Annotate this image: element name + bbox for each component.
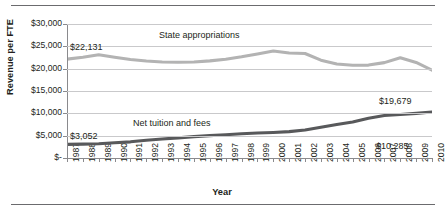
- y-tick-label: $25,000: [4, 40, 62, 50]
- x-tick-mark: [257, 158, 258, 162]
- gridline: [67, 136, 432, 137]
- x-tick-mark: [432, 158, 433, 162]
- value-label-state-start: $22,131: [70, 42, 103, 52]
- value-label-tuition-end: $10,285: [376, 141, 409, 151]
- bottom-horizontal-rule: [11, 204, 435, 205]
- y-tick-mark: [63, 113, 67, 114]
- x-tick-mark: [99, 158, 100, 162]
- x-tick-mark: [289, 158, 290, 162]
- gridline: [67, 24, 432, 25]
- x-axis-title: Year: [0, 187, 444, 197]
- series-line-net-tuition-and-fees: [67, 112, 432, 144]
- series-line-state-appropriations: [67, 51, 432, 70]
- series-label-net-tuition-and-fees: Net tuition and fees: [133, 118, 211, 128]
- x-tick-mark: [210, 158, 211, 162]
- gridline: [67, 113, 432, 114]
- x-tick-mark: [194, 158, 195, 162]
- value-label-state-end: $19,679: [379, 96, 412, 106]
- y-tick-mark: [63, 91, 67, 92]
- x-tick-mark: [305, 158, 306, 162]
- y-tick-mark: [63, 69, 67, 70]
- x-tick-mark: [369, 158, 370, 162]
- gridline: [67, 46, 432, 47]
- y-tick-label: $20,000: [4, 63, 62, 73]
- y-tick-mark: [63, 136, 67, 137]
- x-tick-mark: [226, 158, 227, 162]
- y-tick-label: $30,000: [4, 18, 62, 28]
- x-tick-label: 2010: [436, 143, 446, 162]
- y-axis-title: Revenue per FTE: [5, 19, 15, 95]
- x-tick-mark: [273, 158, 274, 162]
- gridline: [67, 91, 432, 92]
- gridline: [67, 69, 432, 70]
- plot-area: [67, 24, 432, 158]
- y-tick-label: $5,000: [4, 130, 62, 140]
- x-axis-line: [67, 158, 432, 159]
- y-tick-label: $15,000: [4, 85, 62, 95]
- value-label-tuition-start: $3,052: [70, 131, 98, 141]
- x-tick-mark: [115, 158, 116, 162]
- x-tick-mark: [83, 158, 84, 162]
- x-tick-mark: [416, 158, 417, 162]
- x-tick-mark: [384, 158, 385, 162]
- x-tick-mark: [67, 158, 68, 162]
- x-tick-mark: [242, 158, 243, 162]
- y-tick-label: $-: [4, 152, 62, 162]
- y-tick-mark: [63, 46, 67, 47]
- x-tick-mark: [178, 158, 179, 162]
- y-tick-mark: [63, 24, 67, 25]
- x-tick-mark: [400, 158, 401, 162]
- x-tick-mark: [337, 158, 338, 162]
- x-tick-mark: [162, 158, 163, 162]
- x-tick-mark: [130, 158, 131, 162]
- y-tick-label: $10,000: [4, 107, 62, 117]
- x-tick-mark: [321, 158, 322, 162]
- x-tick-mark: [146, 158, 147, 162]
- x-tick-mark: [353, 158, 354, 162]
- top-horizontal-rule: [11, 5, 435, 6]
- series-label-state-appropriations: State appropriations: [159, 30, 240, 40]
